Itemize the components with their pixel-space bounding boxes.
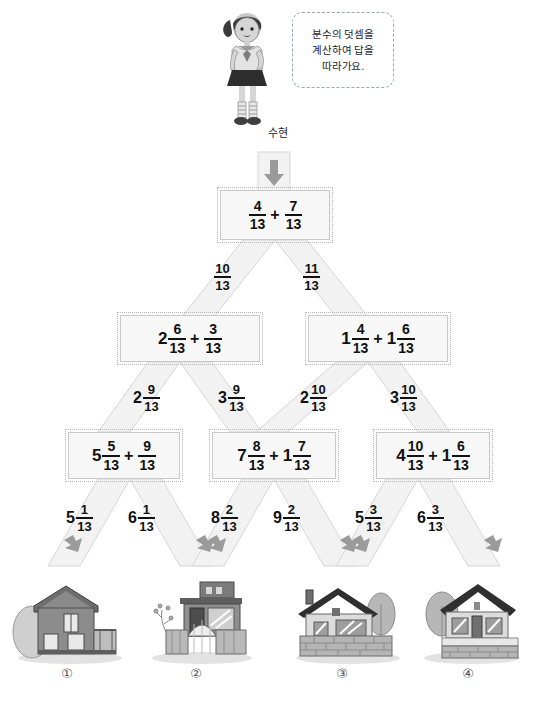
plus-sign: + (369, 331, 386, 347)
equation-box-level3-c[interactable]: 4 1013 + 1 613 (376, 432, 490, 479)
answer-number-1[interactable]: ① (47, 666, 87, 681)
answer-option-4-house[interactable] (412, 578, 530, 664)
branch-label-L3-4: 9 213 (273, 503, 300, 534)
student-name-label: 수현 (268, 124, 288, 140)
student-character-icon (216, 8, 278, 128)
equation-box-level3-b[interactable]: 7 813 + 1 713 (212, 432, 336, 479)
bubble-line-1: 분수의 덧셈을 (312, 26, 374, 42)
plus-sign: + (266, 207, 283, 223)
plus-sign: + (120, 448, 137, 464)
branch-label-L2-1: 2 913 (133, 383, 160, 414)
answer-option-1-house[interactable] (8, 578, 126, 664)
branch-label-L3-2: 6 113 (128, 503, 155, 534)
answer-option-2-house[interactable] (140, 578, 258, 664)
equation-box-level3-a[interactable]: 5 513 + 913 (68, 432, 180, 479)
branch-label-L2-4: 3 1013 (390, 383, 417, 414)
worksheet-canvas: 분수의 덧셈을 계산하여 답을 따라가요. 수현 4 13 + 7 13 101… (0, 0, 548, 711)
plus-sign: + (186, 331, 203, 347)
branch-label-L3-5: 5 313 (355, 503, 382, 534)
equation-box-level2-right[interactable]: 1 413 + 1 613 (308, 315, 448, 362)
plus-sign: + (424, 448, 441, 464)
equation-box-level1[interactable]: 4 13 + 7 13 (220, 190, 330, 240)
answer-number-4[interactable]: ④ (448, 666, 488, 681)
plus-sign: + (265, 448, 282, 464)
speech-bubble: 분수의 덧셈을 계산하여 답을 따라가요. (292, 12, 394, 88)
branch-label-L2-3: 2 1013 (300, 383, 327, 414)
term1-fraction: 4 13 (249, 199, 267, 232)
answer-option-3-house[interactable] (288, 578, 406, 664)
answer-number-3[interactable]: ③ (322, 666, 362, 681)
band-L1-right (275, 240, 369, 318)
term2-fraction: 7 13 (285, 199, 303, 232)
branch-label-L2-2: 3 913 (218, 383, 245, 414)
answer-number-2[interactable]: ② (176, 666, 216, 681)
branch-label-L1-left: 1013 (213, 262, 231, 293)
branch-label-L3-6: 6 313 (417, 503, 444, 534)
branch-label-L3-3: 8 213 (211, 503, 238, 534)
equation-box-level2-left[interactable]: 2 613 + 313 (120, 315, 260, 362)
branch-label-L1-right: 1113 (302, 262, 320, 293)
bubble-line-3: 따라가요. (322, 58, 364, 74)
branch-label-L3-1: 5 113 (66, 503, 93, 534)
bubble-line-2: 계산하여 답을 (312, 42, 374, 58)
